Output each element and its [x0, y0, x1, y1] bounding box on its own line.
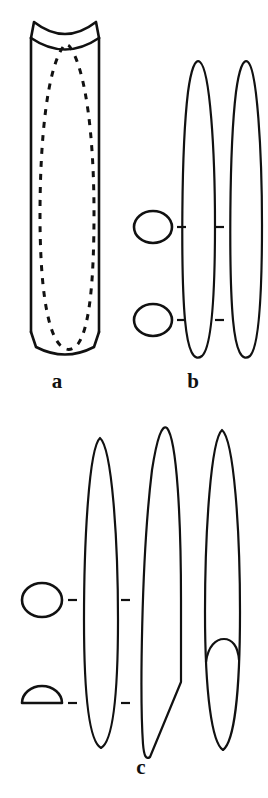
c-cross-section-circle-upper — [22, 583, 62, 617]
cylinder-top-outer-arc — [31, 22, 99, 38]
panel-a — [31, 22, 99, 355]
figure-root: a b c — [0, 0, 268, 798]
c-internal-cup — [206, 639, 239, 662]
c-profile-left — [84, 438, 118, 748]
cylinder-top-inner-arc — [31, 38, 99, 50]
b-profile-left — [182, 61, 215, 357]
c-cross-section-semicircle-lower — [22, 686, 62, 703]
b-cross-section-circle-lower — [134, 304, 172, 336]
cylinder-base-arc — [31, 332, 99, 355]
panel-c — [22, 427, 240, 758]
panel-label-c: c — [126, 757, 156, 778]
figure-canvas — [0, 0, 268, 798]
b-cross-section-circle-upper — [134, 211, 172, 243]
panel-label-b: b — [178, 371, 208, 392]
internal-dashed-loop — [40, 45, 94, 350]
panel-label-a: a — [42, 371, 72, 392]
c-profile-right — [205, 430, 240, 750]
b-profile-right — [230, 61, 262, 357]
panel-b — [134, 61, 262, 357]
c-profile-middle-wedge — [142, 427, 181, 758]
